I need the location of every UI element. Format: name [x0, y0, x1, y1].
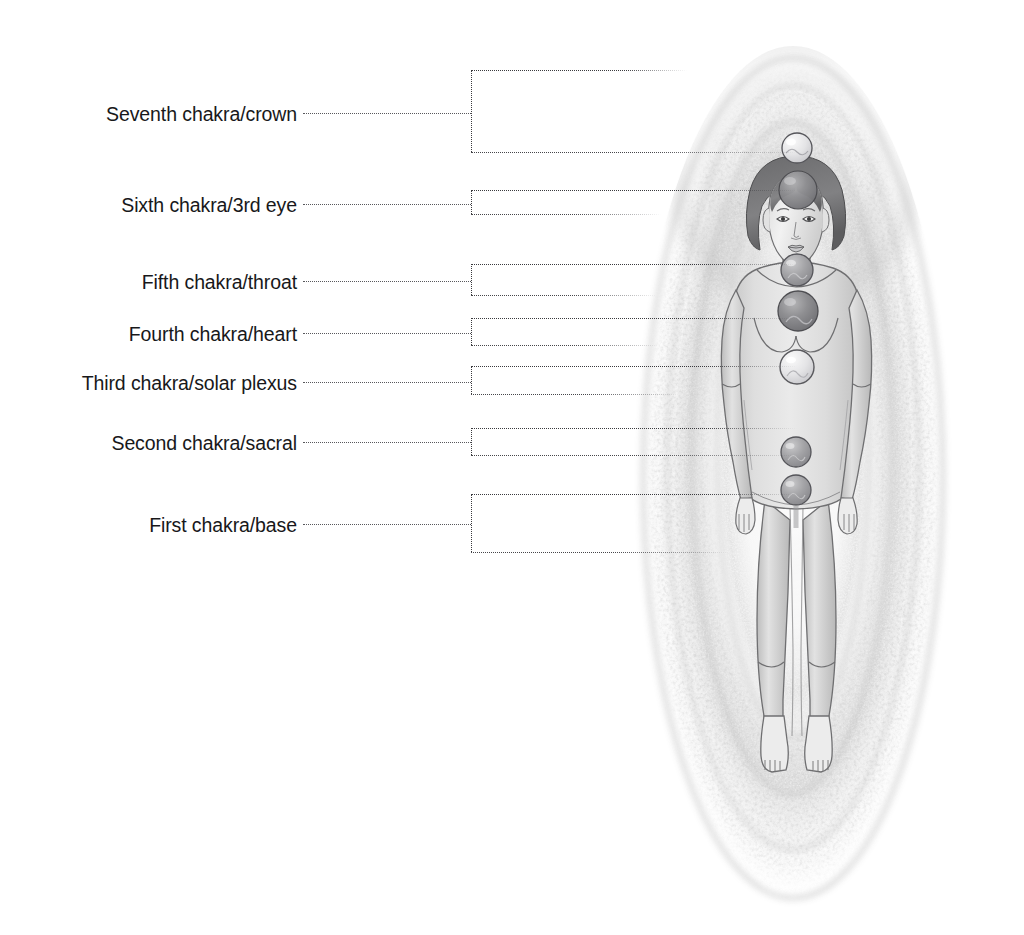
chakra-orb-crown	[782, 133, 812, 163]
callout-bracket-third	[471, 366, 472, 394]
chakra-orb-base	[781, 475, 811, 505]
callout-top-line-fourth	[471, 318, 797, 319]
chakra-label-third: Third chakra/solar plexus	[82, 374, 297, 394]
chakra-label-fourth: Fourth chakra/heart	[129, 325, 297, 345]
chakra-label-text: Third chakra/solar plexus	[82, 374, 297, 394]
chakra-label-text: First chakra/base	[149, 516, 297, 536]
callout-bottom-line-sixth	[471, 214, 661, 215]
figure-illustration	[0, 0, 1024, 935]
chakra-label-text: Fifth chakra/throat	[142, 273, 297, 293]
chakra-label-text: Second chakra/sacral	[111, 434, 297, 454]
callout-bracket-sixth	[471, 190, 472, 214]
chakra-orb-throat	[781, 254, 813, 286]
callout-top-line-first	[471, 494, 797, 495]
chakra-label-fifth: Fifth chakra/throat	[142, 273, 297, 293]
chakra-label-sixth: Sixth chakra/3rd eye	[121, 196, 297, 216]
callout-bracket-seventh	[471, 70, 472, 152]
callout-top-line-fifth	[471, 264, 797, 265]
callout-top-line-sixth	[471, 190, 797, 191]
callout-bottom-line-second	[471, 455, 797, 456]
chakra-orb-heart	[778, 291, 818, 331]
chakra-orb-solar-plexus	[780, 350, 814, 384]
callout-bracket-second	[471, 428, 472, 455]
callout-bottom-line-fifth	[471, 295, 657, 296]
chakra-label-seventh: Seventh chakra/crown	[106, 105, 297, 125]
chakra-orb-sacral	[781, 437, 811, 467]
leader-line-third	[303, 382, 471, 383]
callout-bracket-fourth	[471, 318, 472, 345]
callout-bottom-line-fourth	[471, 345, 659, 346]
callout-bottom-line-third	[471, 394, 680, 395]
leader-line-first	[303, 524, 471, 525]
chakra-diagram-page: Seventh chakra/crownSixth chakra/3rd eye…	[0, 0, 1024, 935]
leader-line-seventh	[303, 113, 471, 114]
callout-bottom-line-seventh	[471, 152, 797, 153]
leader-line-fourth	[303, 333, 471, 334]
chakra-label-second: Second chakra/sacral	[111, 434, 297, 454]
leader-line-sixth	[303, 204, 471, 205]
leader-line-second	[303, 442, 471, 443]
callout-top-line-third	[471, 366, 797, 367]
callout-top-line-seventh	[471, 70, 687, 71]
chakra-label-text: Sixth chakra/3rd eye	[121, 196, 297, 216]
callout-bottom-line-first	[471, 552, 730, 553]
leader-line-fifth	[303, 281, 471, 282]
chakra-label-first: First chakra/base	[149, 516, 297, 536]
callout-bracket-first	[471, 494, 472, 552]
chakra-label-text: Fourth chakra/heart	[129, 325, 297, 345]
callout-bracket-fifth	[471, 264, 472, 295]
chakra-label-text: Seventh chakra/crown	[106, 105, 297, 125]
callout-top-line-second	[471, 428, 797, 429]
